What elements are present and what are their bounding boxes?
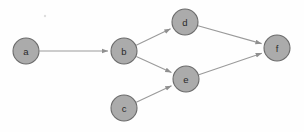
graph-node-c[interactable]: c [111,95,137,121]
node-circle-b[interactable] [111,38,137,64]
graph-node-b[interactable]: b [111,38,137,64]
background-speck [44,15,46,17]
graph-node-a[interactable]: a [13,38,39,64]
node-circle-f[interactable] [264,35,290,61]
directed-graph: abcdef [0,0,304,132]
node-circle-c[interactable] [111,95,137,121]
edge-b-to-d [136,29,170,45]
artifacts-layer [44,15,46,17]
edge-b-to-e [136,57,171,73]
node-circle-a[interactable] [13,38,39,64]
graph-node-e[interactable]: e [173,66,199,92]
graph-node-d[interactable]: d [172,9,198,35]
nodes-layer: abcdef [13,9,290,121]
node-circle-e[interactable] [173,66,199,92]
edges-layer [40,26,262,103]
diagram-canvas: abcdef [0,0,304,132]
node-circle-d[interactable] [172,9,198,35]
edge-c-to-e [136,86,171,103]
graph-node-f[interactable]: f [264,35,290,61]
edge-e-to-f [199,53,262,74]
edge-d-to-f [198,26,262,44]
